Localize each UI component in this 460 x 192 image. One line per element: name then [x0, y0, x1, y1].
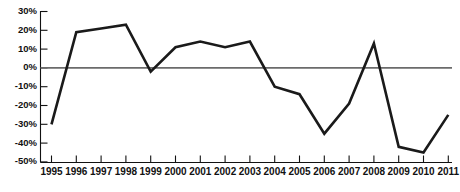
chart-canvas: 30% 20% 10% 0% -10% -20% -30% -40% -50% [0, 0, 460, 192]
x-axis-tick-labels: 1995 1996 1997 1998 1999 2000 2001 2002 … [40, 166, 459, 177]
x-tick-label-1996: 1996 [65, 166, 88, 177]
y-tick-label-20: 20% [18, 24, 38, 35]
line-chart: 30% 20% 10% 0% -10% -20% -30% -40% -50% [0, 0, 460, 192]
y-tick-label-minus10: -10% [15, 80, 38, 91]
x-tick-label-2003: 2003 [239, 166, 262, 177]
x-tick-label-1999: 1999 [140, 166, 163, 177]
y-tick-label-minus40: -40% [15, 137, 38, 148]
x-tick-label-2004: 2004 [264, 166, 287, 177]
x-tick-label-2009: 2009 [388, 166, 411, 177]
x-tick-label-2006: 2006 [313, 166, 336, 177]
y-tick-label-minus50: -50% [15, 155, 38, 166]
x-tick-label-2001: 2001 [189, 166, 212, 177]
y-axis-tick-labels: 30% 20% 10% 0% -10% -20% -30% -40% -50% [15, 5, 38, 166]
x-tick-label-1998: 1998 [115, 166, 138, 177]
x-tick-label-1995: 1995 [40, 166, 63, 177]
y-tick-label-10: 10% [18, 43, 38, 54]
y-axis: 30% 20% 10% 0% -10% -20% -30% -40% -50% [15, 5, 48, 166]
data-series-line [52, 25, 449, 153]
x-tick-label-2007: 2007 [338, 166, 361, 177]
y-tick-label-minus30: -30% [15, 118, 38, 129]
x-tick-label-2002: 2002 [214, 166, 237, 177]
x-tick-label-2005: 2005 [288, 166, 311, 177]
x-axis: 1995 1996 1997 1998 1999 2000 2001 2002 … [40, 156, 459, 178]
y-tick-label-30: 30% [18, 5, 38, 16]
y-tick-label-minus20: -20% [15, 99, 38, 110]
x-tick-label-2010: 2010 [412, 166, 435, 177]
y-tick-label-0: 0% [23, 61, 37, 72]
x-tick-label-1997: 1997 [90, 166, 113, 177]
x-tick-label-2000: 2000 [164, 166, 187, 177]
x-tick-label-2008: 2008 [363, 166, 386, 177]
x-axis-ticks [52, 156, 449, 163]
x-tick-label-2011: 2011 [437, 166, 459, 177]
y-axis-ticks [41, 12, 48, 162]
